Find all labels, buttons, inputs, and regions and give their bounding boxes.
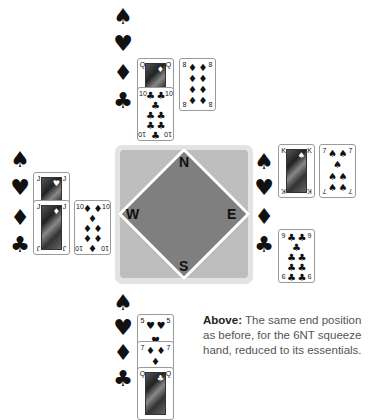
- east-diamond-icon: ♦: [253, 206, 275, 228]
- south-club-icon: ♣: [112, 368, 134, 390]
- card-rank: 10: [165, 131, 172, 138]
- club-pips-icon: ♣♣♣♣♣♣♣♣♣: [286, 233, 307, 279]
- card-rank: J: [61, 203, 68, 210]
- south-diamond-icon: ♦: [112, 342, 134, 364]
- club-pips-icon: ♣♣♣♣♣♣♣♣♣♣: [145, 91, 166, 137]
- east-spade-icon: ♠: [253, 151, 275, 173]
- card-rank: 10: [165, 90, 172, 97]
- east-club-icon: ♣: [253, 234, 275, 256]
- card-rank: 8: [207, 101, 214, 108]
- east-heart-icon: ♥: [253, 177, 275, 199]
- king-face-icon: ♠: [286, 149, 307, 193]
- south-heart-icon: ♥: [112, 317, 134, 339]
- card-south-queen-clubs: Q Q ♣: [137, 367, 174, 420]
- card-rank: K: [306, 147, 313, 154]
- west-club-icon: ♣: [9, 234, 31, 256]
- compass-south-label: S: [179, 259, 188, 273]
- caption-lead: Above:: [203, 314, 242, 326]
- diamond-pips-icon: ♦♦♦♦♦♦♦♦♦♦: [82, 204, 103, 251]
- figure-caption: Above: The same end position as before, …: [203, 313, 375, 358]
- card-rank: J: [61, 245, 68, 252]
- card-east-king-spades: K K K K ♠: [278, 144, 315, 198]
- card-west-jack-diamonds: J J J J ♦: [33, 200, 70, 255]
- diamond-pips-icon: ♦♦♦♦♦♦♦♦: [187, 62, 208, 107]
- north-spade-icon: ♠: [112, 6, 134, 28]
- card-rank: 10: [102, 245, 109, 252]
- card-rank: 10: [102, 203, 109, 210]
- card-rank: K: [306, 188, 313, 195]
- card-east-9-clubs: 9 9 9 9 ♣♣♣♣♣♣♣♣♣: [278, 229, 315, 283]
- spade-pips-icon: ♠♠♠♠♠♠♠: [327, 148, 348, 194]
- north-club-icon: ♣: [112, 90, 134, 112]
- card-rank: 8: [207, 61, 214, 68]
- card-rank: 9: [306, 232, 313, 239]
- north-diamond-icon: ♦: [112, 62, 134, 84]
- card-rank: Q: [165, 61, 172, 68]
- card-rank: 7: [165, 344, 172, 351]
- card-rank: 5: [165, 317, 172, 324]
- card-west-10-diamonds: 10 10 10 10 ♦♦♦♦♦♦♦♦♦♦: [74, 200, 111, 255]
- west-diamond-icon: ♦: [9, 207, 31, 229]
- card-rank: Q: [165, 370, 172, 377]
- card-rank: 7: [347, 147, 354, 154]
- compass-west-label: W: [126, 207, 139, 221]
- queen-face-icon: ♣: [145, 372, 166, 415]
- card-east-7-spades: 7 7 7 7 ♠♠♠♠♠♠♠: [319, 144, 356, 198]
- card-north-8-diamonds: 8 8 8 8 ♦♦♦♦♦♦♦♦: [179, 58, 216, 111]
- west-spade-icon: ♠: [9, 149, 31, 171]
- jack-face-icon: ♦: [41, 205, 62, 250]
- card-north-10-clubs: 10 10 10 10 ♣♣♣♣♣♣♣♣♣♣: [137, 87, 174, 141]
- card-rank: 9: [306, 273, 313, 280]
- compass-east-label: E: [227, 207, 236, 221]
- north-heart-icon: ♥: [112, 33, 134, 55]
- compass-north-label: N: [179, 155, 189, 169]
- card-rank: J: [61, 175, 68, 182]
- west-heart-icon: ♥: [9, 177, 31, 199]
- card-rank: 7: [347, 188, 354, 195]
- south-spade-icon: ♠: [112, 292, 134, 314]
